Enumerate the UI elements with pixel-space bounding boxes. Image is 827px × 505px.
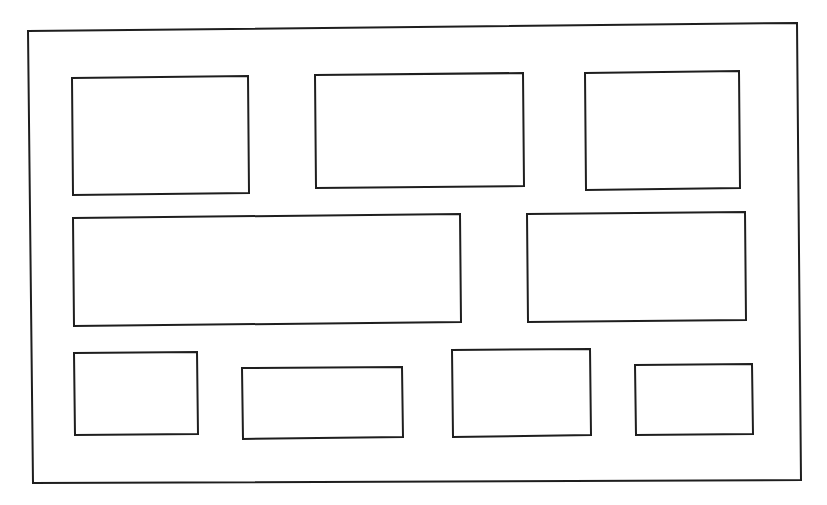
box-row2-1 [73, 214, 461, 326]
box-row2-2 [527, 212, 746, 322]
row-3 [74, 349, 753, 439]
block-diagram [0, 0, 827, 505]
box-row1-3 [585, 71, 740, 190]
box-row3-1 [74, 352, 198, 435]
row-1 [72, 71, 740, 195]
row-2 [73, 212, 746, 326]
box-row3-3 [452, 349, 591, 437]
box-row1-1 [72, 76, 249, 195]
box-row3-2 [242, 367, 403, 439]
box-row3-4 [635, 364, 753, 435]
box-row1-2 [315, 73, 524, 188]
outer-frame [28, 23, 801, 483]
